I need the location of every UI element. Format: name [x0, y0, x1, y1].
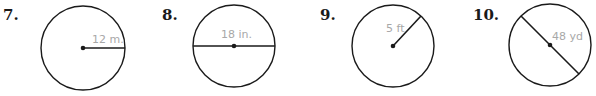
- circle-figure-7: 12 m.: [41, 6, 125, 90]
- center-point-8: [232, 44, 237, 49]
- circle-figure-9: 5 ft: [352, 5, 434, 87]
- measure-label-8: 18 in.: [221, 28, 252, 41]
- circle-figure-8: 18 in.: [193, 5, 275, 87]
- circle-figures: 12 m. 18 in. 5 ft 48 yd: [0, 0, 596, 96]
- center-point-10: [548, 43, 553, 48]
- circle-figure-10: 48 yd: [509, 4, 591, 86]
- measure-label-10: 48 yd: [552, 30, 583, 43]
- measure-label-9: 5 ft: [386, 22, 405, 35]
- measure-label-7: 12 m.: [92, 33, 124, 46]
- center-point-7: [81, 46, 86, 51]
- center-point-9: [391, 44, 396, 49]
